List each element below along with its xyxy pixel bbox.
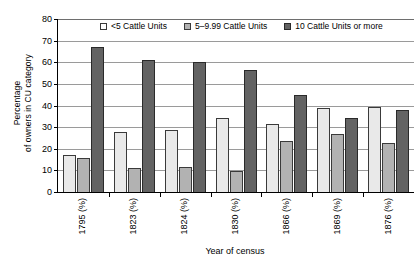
y-axis-tick-mark bbox=[54, 192, 58, 193]
bar bbox=[114, 132, 127, 192]
bar bbox=[331, 134, 344, 192]
bar-group bbox=[109, 19, 160, 192]
bar bbox=[368, 107, 381, 192]
x-axis-label-cell: 1869 (%) bbox=[311, 198, 362, 250]
x-axis-tick-label: 1866 (%) bbox=[281, 198, 291, 235]
bar bbox=[165, 130, 178, 192]
legend-label: 5–9.99 Cattle Units bbox=[195, 21, 267, 31]
bar bbox=[230, 171, 243, 192]
legend-label: 10 Cattle Units or more bbox=[295, 21, 382, 31]
x-axis-label-cell: 1795 (%) bbox=[57, 198, 108, 250]
bar bbox=[142, 60, 155, 192]
x-axis-label-cell: 1876 (%) bbox=[362, 198, 413, 250]
x-axis-tick-label: 1823 (%) bbox=[128, 198, 138, 235]
y-axis-tick-label: 80 bbox=[42, 14, 52, 24]
bar bbox=[216, 118, 229, 192]
x-axis-tick-mark bbox=[160, 192, 161, 197]
x-axis-label-cell: 1824 (%) bbox=[159, 198, 210, 250]
x-axis-title: Year of census bbox=[57, 246, 413, 256]
legend-label: <5 Cattle Units bbox=[111, 21, 167, 31]
bar bbox=[77, 158, 90, 192]
y-axis-title-line-1: Percentage bbox=[12, 18, 23, 188]
x-axis-label-cell: 1823 (%) bbox=[108, 198, 159, 250]
x-axis-label-cell: 1830 (%) bbox=[210, 198, 261, 250]
bar bbox=[280, 141, 293, 192]
y-axis-tick-label: 50 bbox=[42, 79, 52, 89]
x-axis-tick-mark bbox=[312, 192, 313, 197]
bar bbox=[345, 118, 358, 192]
x-axis-tick-label: 1795 (%) bbox=[77, 198, 87, 235]
bar-group bbox=[363, 19, 414, 192]
bar bbox=[382, 143, 395, 192]
bar-group bbox=[261, 19, 312, 192]
bar bbox=[193, 62, 206, 192]
y-axis-title-line-2: of owners in CU category bbox=[23, 18, 34, 188]
bar-chart: Percentage of owners in CU category 0102… bbox=[0, 0, 420, 262]
x-axis-tick-mark bbox=[109, 192, 110, 197]
legend-swatch-dark bbox=[284, 23, 291, 30]
bar-group bbox=[58, 19, 109, 192]
bar bbox=[317, 108, 330, 192]
bar bbox=[63, 155, 76, 192]
x-axis-tick-label: 1830 (%) bbox=[230, 198, 240, 235]
y-axis-tick-label: 30 bbox=[42, 122, 52, 132]
legend-item: 5–9.99 Cattle Units bbox=[184, 21, 267, 31]
x-axis-tick-label: 1876 (%) bbox=[383, 198, 393, 235]
x-axis-tick-label: 1824 (%) bbox=[179, 198, 189, 235]
bar bbox=[294, 95, 307, 192]
y-axis-tick-label: 10 bbox=[42, 165, 52, 175]
bar bbox=[266, 124, 279, 192]
x-axis-tick-mark bbox=[363, 192, 364, 197]
bar-groups bbox=[58, 19, 414, 192]
legend-swatch-mid bbox=[184, 23, 191, 30]
legend-item: <5 Cattle Units bbox=[100, 21, 167, 31]
x-axis-tick-label: 1869 (%) bbox=[332, 198, 342, 235]
bar-group bbox=[160, 19, 211, 192]
x-axis-tick-mark bbox=[211, 192, 212, 197]
bar bbox=[396, 110, 409, 192]
plot-area: 01020304050607080 bbox=[57, 19, 414, 193]
y-axis-tick-label: 60 bbox=[42, 57, 52, 67]
chart-legend: <5 Cattle Units5–9.99 Cattle Units10 Cat… bbox=[100, 21, 383, 31]
x-axis-label-cell: 1866 (%) bbox=[260, 198, 311, 250]
bar bbox=[179, 167, 192, 192]
legend-item: 10 Cattle Units or more bbox=[284, 21, 382, 31]
bar bbox=[244, 70, 257, 192]
y-axis-tick-label: 40 bbox=[42, 101, 52, 111]
y-axis-tick-label: 0 bbox=[47, 187, 52, 197]
bar bbox=[91, 47, 104, 192]
x-axis-labels: 1795 (%)1823 (%)1824 (%)1830 (%)1866 (%)… bbox=[57, 198, 413, 250]
y-axis-title: Percentage of owners in CU category bbox=[12, 18, 34, 188]
bar-group bbox=[312, 19, 363, 192]
x-axis-tick-mark bbox=[261, 192, 262, 197]
y-axis-tick-label: 20 bbox=[42, 144, 52, 154]
bar bbox=[128, 168, 141, 192]
bar-group bbox=[211, 19, 262, 192]
y-axis-tick-label: 70 bbox=[42, 36, 52, 46]
legend-swatch-light bbox=[100, 23, 107, 30]
